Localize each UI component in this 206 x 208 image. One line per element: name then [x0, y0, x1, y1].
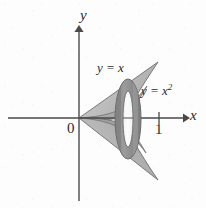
- y-axis-arrowhead: [74, 25, 83, 32]
- x-axis-arrowhead: [183, 113, 190, 122]
- x-axis-label: x: [190, 108, 197, 123]
- washer-ring-highlight: [133, 79, 138, 159]
- parabola-equation-label: y = x2: [141, 83, 172, 97]
- line-equation-label: y = x: [97, 61, 124, 74]
- y-axis-label: y: [80, 8, 87, 23]
- x-tick-label-1: 1: [155, 122, 163, 137]
- parabola-equation-exponent: 2: [168, 82, 173, 92]
- washer-inner-hole: [123, 91, 133, 147]
- solid-of-revolution-figure: y x 0 1 y = x y = x2: [0, 0, 206, 208]
- origin-label: 0: [67, 121, 75, 136]
- parabola-equation-base: y = x: [141, 83, 168, 98]
- washer-annulus: [115, 79, 141, 159]
- figure-canvas: [0, 0, 206, 208]
